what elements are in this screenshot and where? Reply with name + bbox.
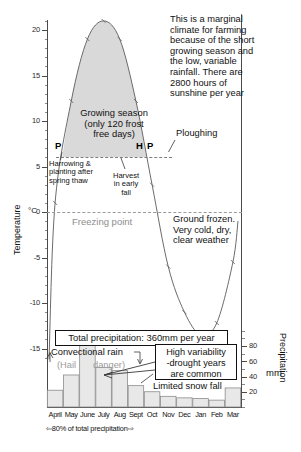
hail-label: (Hail <box>57 360 76 370</box>
growing-season-baseline <box>56 157 172 158</box>
convectional-rain-label: Convectional rain <box>51 347 123 357</box>
precipitation-bar-Jan <box>193 399 209 407</box>
arrow-right-icon: ⇨ <box>128 424 134 433</box>
harvest-leader <box>121 158 125 169</box>
precipitation-bar-April <box>47 390 63 407</box>
percent-precipitation-note: ⇦80% of total precipitation⇨ <box>46 424 133 433</box>
intro-note: This is a marginal climate for farming b… <box>170 14 290 99</box>
temperature-point-Dec <box>182 310 186 314</box>
marker-p-fall: P <box>147 140 153 151</box>
freezing-point-label: Freezing point <box>72 216 132 227</box>
growing-season-label: Growing season (only 120 frost free days… <box>58 108 170 140</box>
precipitation-bar-Mar <box>225 388 241 407</box>
precipitation-bar-Feb <box>209 400 225 407</box>
high-variability-box: High variability -drought years are comm… <box>155 344 237 380</box>
danger-label: danger) <box>93 360 125 370</box>
precipitation-bar-Oct <box>144 392 160 407</box>
climate-graph-figure: 20151050-5-10-15 80604020 °C Temperature… <box>0 0 301 452</box>
ground-frozen-note: Ground frozen. Very cold, dry, clear wea… <box>173 214 245 246</box>
precipitation-bar-Dec <box>177 398 193 407</box>
limited-snowfall-label: Limited snow fall <box>153 381 222 391</box>
temperature-point-Feb <box>215 321 219 325</box>
marker-h-harvest: H <box>136 140 143 151</box>
harvest-note: Harvest in early fall <box>105 172 147 197</box>
freezing-point-line <box>47 212 242 213</box>
snowfall-leader <box>141 374 153 383</box>
precipitation-bar-Nov <box>160 396 176 407</box>
percent-precipitation-text: 80% of total precipitation <box>52 424 128 433</box>
month-label-Mar: Mar <box>223 410 243 419</box>
ploughing-label: Ploughing <box>176 128 217 138</box>
precipitation-bar-Aug <box>112 370 128 407</box>
precipitation-bar-Sept <box>128 386 144 407</box>
ploughing-leader <box>169 140 176 152</box>
precipitation-bar-May <box>63 375 79 407</box>
marker-p-spring: P <box>55 140 61 151</box>
